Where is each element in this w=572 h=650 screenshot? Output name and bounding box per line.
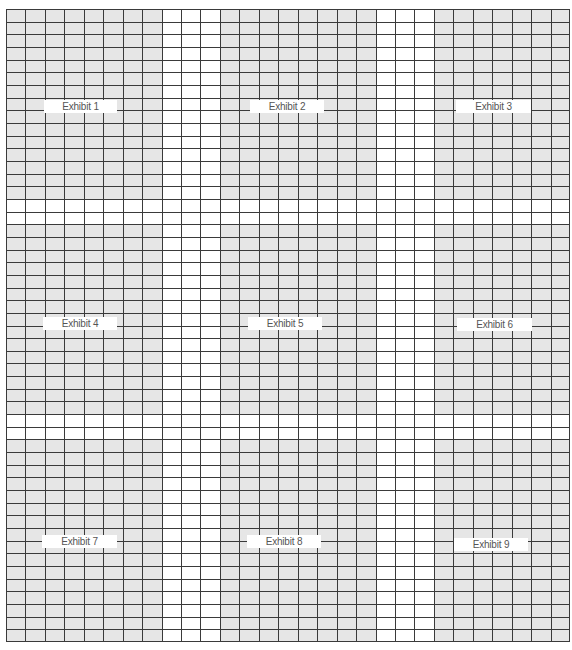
grid-hline [6, 148, 570, 149]
grid-hline [6, 275, 570, 276]
grid-hline [6, 604, 570, 605]
grid-hline [6, 452, 570, 453]
grid-hline [6, 338, 570, 339]
grid-hline [6, 224, 570, 225]
exhibit-label-4: Exhibit 4 [43, 317, 117, 330]
grid-vline [376, 9, 377, 642]
grid-hline [6, 174, 570, 175]
grid-hline [6, 363, 570, 364]
grid-hline [6, 47, 570, 48]
grid-hline [6, 186, 570, 187]
grid-vline [239, 9, 240, 642]
grid-hline [6, 9, 570, 10]
exhibit-label-9: Exhibit 9 [454, 538, 528, 551]
grid-vline [142, 9, 143, 642]
grid-hline [6, 199, 570, 200]
grid-hline [6, 528, 570, 529]
grid-hline [6, 503, 570, 504]
grid-hline [6, 566, 570, 567]
grid-hline [6, 439, 570, 440]
grid-hline [6, 579, 570, 580]
grid-hline [6, 237, 570, 238]
grid-hline [6, 591, 570, 592]
grid-hline [6, 629, 570, 630]
exhibit-label-6: Exhibit 6 [457, 318, 532, 331]
grid-hline [6, 288, 570, 289]
grid-hline [6, 414, 570, 415]
grid-hline [6, 465, 570, 466]
grid-hline [6, 212, 570, 213]
exhibit-label-3: Exhibit 3 [456, 100, 531, 113]
grid-hline [6, 136, 570, 137]
grid-hline [6, 477, 570, 478]
grid-vline [220, 9, 221, 642]
grid-vline [25, 9, 26, 642]
grid-hline [6, 515, 570, 516]
exhibit-label-1: Exhibit 1 [44, 100, 117, 113]
grid-vline [569, 9, 570, 642]
exhibit-label-7: Exhibit 7 [42, 535, 117, 548]
grid-hline [6, 376, 570, 377]
grid-hline [6, 98, 570, 99]
grid-hline [6, 401, 570, 402]
grid-vline [123, 9, 124, 642]
grid-vline [356, 9, 357, 642]
grid-hline [6, 300, 570, 301]
grid-hline [6, 389, 570, 390]
grid-hline [6, 123, 570, 124]
grid-hline [6, 22, 570, 23]
grid-vline [395, 9, 396, 642]
grid-vline [551, 9, 552, 642]
grid-hline [6, 553, 570, 554]
grid-hline [6, 60, 570, 61]
grid-hline [6, 351, 570, 352]
grid-hline [6, 427, 570, 428]
grid-hline [6, 262, 570, 263]
grid-vline [434, 9, 435, 642]
exhibit-label-5: Exhibit 5 [248, 317, 322, 330]
grid-hline [6, 617, 570, 618]
grid-vline [200, 9, 201, 642]
grid-vline [414, 9, 415, 642]
grid-hline [6, 85, 570, 86]
exhibit-label-8: Exhibit 8 [247, 535, 321, 548]
exhibit-label-2: Exhibit 2 [250, 100, 324, 113]
grid-hline [6, 72, 570, 73]
grid-vline [181, 9, 182, 642]
grid-vline [162, 9, 163, 642]
grid-hline [6, 490, 570, 491]
grid-hline [6, 34, 570, 35]
grid-hline [6, 313, 570, 314]
grid-hline [6, 161, 570, 162]
grid-hline [6, 250, 570, 251]
grid-vline [337, 9, 338, 642]
grid-vline [6, 9, 7, 642]
grid-hline [6, 641, 570, 642]
